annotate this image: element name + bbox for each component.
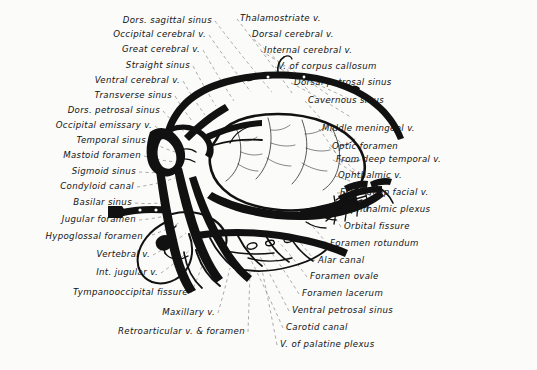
anatomy-label: Dors. sagittal sinus	[123, 16, 212, 25]
anatomy-label: Occipital emissary v.	[56, 121, 152, 130]
anatomy-label: Straight sinus	[126, 61, 190, 70]
anatomy-label: Tympanooccipital fissure	[73, 288, 188, 297]
anatomy-label: Thalamostriate v.	[240, 14, 321, 23]
leader-line	[248, 272, 250, 332]
anatomy-label: Jugular foramen	[62, 215, 136, 224]
anatomy-label: Foramen lacerum	[302, 289, 383, 298]
anatomy-label: Dors. petrosal sinus	[68, 106, 160, 115]
anatomy-label: Internal cerebral v.	[264, 46, 352, 55]
anatomy-label: V. of corpus callosum	[278, 62, 377, 71]
anatomy-label: Dorsal petrosal sinus	[294, 78, 392, 87]
anatomy-label: Great cerebral v.	[122, 45, 200, 54]
anatomical-plate: .ink{fill:#111;stroke:none;} .vein{fill:…	[0, 0, 537, 370]
anatomy-label: Foramen rotundum	[330, 239, 419, 248]
anatomy-label: Maxillary v.	[162, 308, 215, 317]
anatomy-label: Middle meningeal v.	[322, 124, 415, 133]
leader-line	[203, 50, 234, 101]
anatomy-label: Ophthalmic plexus	[344, 205, 430, 214]
anatomy-label: Int. jugular v.	[96, 268, 158, 277]
anatomy-label: Occipital cerebral v.	[113, 30, 206, 39]
anatomy-label: Foramen ovale	[310, 272, 379, 281]
leader-line	[262, 270, 277, 345]
anatomy-label: Retroarticular v. & foramen	[118, 327, 245, 336]
anatomy-label: V. of palatine plexus	[280, 340, 374, 349]
anatomy-label: Ventral cerebral v.	[95, 76, 180, 85]
anatomy-label: Condyloid canal	[60, 182, 134, 191]
anatomy-label: Transverse sinus	[94, 91, 172, 100]
anatomy-label: Vertebral v.	[96, 250, 150, 259]
anatomy-label: Carotid canal	[286, 323, 348, 332]
anatomy-label: Optic foramen	[332, 142, 398, 151]
anatomy-label: Cavernous sinus	[308, 96, 384, 105]
anatomy-label: Orbital fissure	[344, 222, 410, 231]
anatomy-label: Basilar sinus	[73, 198, 132, 207]
anatomy-label: Mastoid foramen	[63, 151, 141, 160]
anatomy-label: From deep temporal v.	[336, 155, 441, 164]
leader-line	[258, 253, 289, 311]
anatomy-label: Sigmoid sinus	[72, 167, 136, 176]
anatomy-label: Temporal sinus	[76, 136, 146, 145]
anatomy-label: Hypoglossal foramen	[45, 232, 143, 241]
anatomy-label: Ventral petrosal sinus	[292, 306, 393, 315]
leader-line	[137, 178, 175, 187]
leader-line	[278, 241, 307, 277]
anatomy-label: From deep facial v.	[340, 188, 429, 197]
anatomy-label: Ophthalmic v.	[338, 171, 402, 180]
anatomy-label: Dorsal cerebral v.	[252, 30, 334, 39]
anatomy-label: Alar canal	[318, 256, 364, 265]
